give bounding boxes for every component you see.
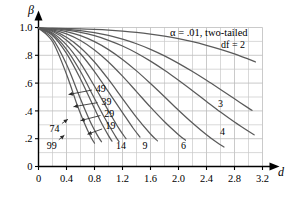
x-tick-label: 2.0 <box>172 173 185 184</box>
y-tick-label: 0 <box>27 161 32 172</box>
curve-label: 6 <box>181 140 186 151</box>
curve-label: df = 2 <box>221 39 245 50</box>
leader-arrowhead <box>74 104 78 108</box>
x-tick-label: 0 <box>36 173 41 184</box>
y-tick-label: .8 <box>25 50 33 61</box>
curve-label: 74 <box>50 123 60 134</box>
x-tick-label: 1.6 <box>144 173 157 184</box>
x-tick-label: 2.8 <box>228 173 241 184</box>
curve-label: 14 <box>116 140 126 151</box>
curve-label: 39 <box>101 96 111 107</box>
x-tick-label: 1.2 <box>116 173 129 184</box>
y-tick-label: .4 <box>25 106 34 117</box>
x-tick-label: 3.2 <box>256 173 269 184</box>
curve-label: 29 <box>104 108 114 119</box>
curve-label: 49 <box>96 83 106 94</box>
y-tick-label: 1.0 <box>19 22 32 33</box>
leader-arrowhead <box>63 119 68 123</box>
y-tick-label: .6 <box>25 78 33 89</box>
y-axis-arrowhead <box>35 11 43 21</box>
alpha-annotation: α = .01, two-tailed <box>170 27 248 38</box>
y-tick-label: .2 <box>25 133 33 144</box>
x-axis-title: d <box>278 165 285 179</box>
curve-label: 9 <box>142 140 147 151</box>
x-tick-label: 0.8 <box>88 173 101 184</box>
x-tick-label: 0.4 <box>60 173 74 184</box>
beta-power-chart: df = 2346914192939497499 00.40.81.21.62.… <box>0 0 292 198</box>
y-axis-title: β <box>27 3 34 17</box>
curve-label-layer: df = 2346914192939497499 <box>47 39 245 151</box>
leader-arrowhead <box>69 92 74 96</box>
chart-canvas: df = 2346914192939497499 00.40.81.21.62.… <box>0 0 292 198</box>
curve-label: 3 <box>218 98 223 109</box>
curve-label: 19 <box>106 120 116 131</box>
x-tick-label: 2.4 <box>200 173 214 184</box>
curve-label: 4 <box>220 126 225 137</box>
curve-label: 99 <box>47 140 57 151</box>
